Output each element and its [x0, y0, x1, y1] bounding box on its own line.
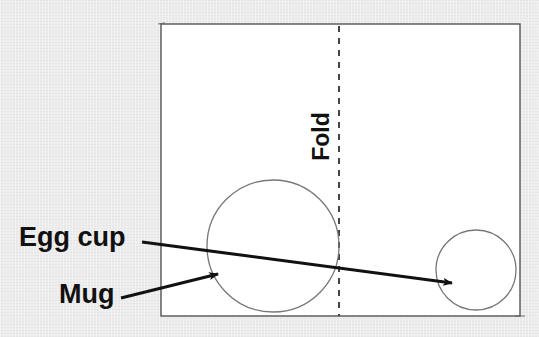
paper-sheet — [161, 24, 520, 316]
egg-cup-label: Egg cup — [19, 224, 126, 251]
fold-label: Fold — [310, 112, 333, 161]
mug-label: Mug — [59, 281, 114, 308]
